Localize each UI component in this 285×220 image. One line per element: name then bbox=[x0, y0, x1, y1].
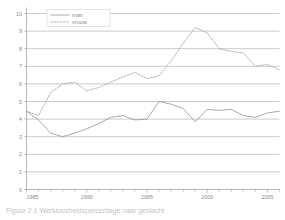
y-tick-label: 4 bbox=[19, 116, 22, 122]
y-tick-label: 0 bbox=[19, 187, 22, 193]
y-tick-label: 9 bbox=[19, 28, 22, 34]
legend-label-vrouw: vrouw bbox=[72, 19, 88, 25]
x-tick-label: 2005 bbox=[261, 194, 273, 200]
chart-plot-area: 012345678910 19851990199520002005 manvro… bbox=[0, 0, 285, 203]
y-tick-label: 3 bbox=[19, 134, 22, 140]
x-tick-label: 1985 bbox=[27, 194, 39, 200]
y-tick-label: 10 bbox=[16, 11, 22, 17]
x-tick-label: 1995 bbox=[141, 194, 153, 200]
y-tick-label: 2 bbox=[19, 151, 22, 157]
y-tick-label: 6 bbox=[19, 81, 22, 87]
gridlines-group bbox=[27, 14, 280, 172]
y-tick-label: 8 bbox=[19, 46, 22, 52]
chart-legend: manvrouw bbox=[47, 10, 110, 27]
x-tick-label: 2000 bbox=[201, 194, 213, 200]
x-axis-ticks-group: 19851990199520002005 bbox=[27, 190, 280, 201]
figure-caption: Figuur 2.1 Werkloosheidspercentage naar … bbox=[6, 205, 281, 220]
legend-label-man: man bbox=[72, 12, 83, 18]
data-series-group bbox=[27, 28, 280, 137]
y-axis-ticks-group: 012345678910 bbox=[16, 11, 27, 193]
series-line-vrouw bbox=[27, 28, 280, 116]
line-chart: 012345678910 19851990199520002005 manvro… bbox=[0, 0, 285, 203]
x-tick-label: 1990 bbox=[81, 194, 93, 200]
chart-figure: 012345678910 19851990199520002005 manvro… bbox=[0, 0, 285, 220]
y-tick-label: 5 bbox=[19, 99, 22, 105]
y-tick-label: 7 bbox=[19, 63, 22, 69]
y-tick-label: 1 bbox=[19, 169, 22, 175]
